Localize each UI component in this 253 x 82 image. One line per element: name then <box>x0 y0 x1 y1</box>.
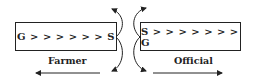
curved-arrow-down-right-icon <box>134 37 146 71</box>
curved-arrow-up-right-icon <box>134 8 146 37</box>
arrows-layer <box>0 0 253 82</box>
curved-arrow-up-left-icon <box>112 9 122 37</box>
curved-arrow-down-left-icon <box>112 37 122 71</box>
